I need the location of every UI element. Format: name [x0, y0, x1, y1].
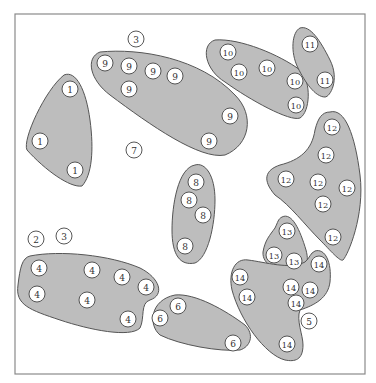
node-6: 6	[225, 335, 241, 351]
node-10: 10	[259, 60, 275, 76]
node-10: 10	[231, 64, 247, 80]
node-label: 12	[281, 175, 291, 185]
node-label: 5	[306, 317, 312, 327]
node-4: 4	[138, 279, 154, 295]
node-label: 8	[193, 178, 199, 188]
node-label: 2	[33, 235, 39, 245]
node-label: 12	[327, 123, 337, 133]
node-label: 14	[305, 286, 315, 296]
node-label: 3	[133, 35, 139, 45]
node-label: 10	[290, 77, 300, 87]
node-14: 14	[279, 336, 295, 352]
node-label: 12	[342, 184, 352, 194]
node-8: 8	[181, 192, 197, 208]
node-14: 14	[283, 279, 299, 295]
node-9: 9	[145, 63, 161, 79]
node-label: 4	[36, 264, 42, 274]
node-label: 3	[61, 232, 67, 242]
node-9: 9	[201, 133, 217, 149]
node-label: 9	[126, 62, 132, 72]
node-12: 12	[315, 196, 331, 212]
node-label: 14	[314, 260, 324, 270]
node-label: 13	[282, 227, 292, 237]
node-label: 14	[242, 293, 252, 303]
node-label: 13	[289, 257, 299, 267]
node-label: 14	[282, 340, 292, 350]
node-8: 8	[177, 238, 193, 254]
node-12: 12	[325, 229, 341, 245]
node-label: 9	[150, 67, 156, 77]
node-9: 9	[97, 55, 113, 71]
node-label: 9	[227, 112, 233, 122]
node-5: 5	[301, 313, 317, 329]
node-11: 11	[302, 36, 318, 52]
node-label: 11	[305, 40, 315, 50]
node-label: 12	[328, 233, 338, 243]
node-8: 8	[195, 207, 211, 223]
node-7: 7	[126, 142, 142, 158]
node-label: 6	[230, 339, 236, 349]
node-14: 14	[239, 289, 255, 305]
node-12: 12	[339, 180, 355, 196]
node-label: 10	[223, 48, 233, 58]
node-label: 12	[313, 178, 323, 188]
node-label: 1	[37, 137, 43, 147]
node-14: 14	[288, 295, 304, 311]
node-label: 7	[131, 146, 137, 156]
node-label: 10	[262, 64, 272, 74]
node-label: 4	[84, 296, 90, 306]
node-label: 10	[291, 101, 301, 111]
node-14: 14	[232, 269, 248, 285]
node-label: 4	[143, 283, 149, 293]
node-label: 13	[269, 251, 279, 261]
node-9: 9	[121, 58, 137, 74]
node-12: 12	[278, 171, 294, 187]
node-10: 10	[287, 73, 303, 89]
node-13: 13	[266, 247, 282, 263]
cluster-diagram: 1112334444444566678888999999910101010101…	[0, 0, 376, 383]
node-4: 4	[120, 311, 136, 327]
node-3: 3	[56, 228, 72, 244]
node-label: 4	[125, 315, 131, 325]
node-label: 9	[102, 59, 108, 69]
node-12: 12	[318, 147, 334, 163]
node-label: 8	[186, 196, 192, 206]
node-12: 12	[324, 119, 340, 135]
node-label: 6	[157, 314, 163, 324]
node-label: 14	[291, 299, 301, 309]
node-label: 4	[89, 266, 95, 276]
node-13: 13	[279, 223, 295, 239]
node-label: 8	[200, 211, 206, 221]
node-4: 4	[84, 262, 100, 278]
node-6: 6	[152, 310, 168, 326]
node-label: 10	[234, 68, 244, 78]
node-1: 1	[62, 81, 78, 97]
node-9: 9	[222, 108, 238, 124]
node-10: 10	[288, 97, 304, 113]
node-4: 4	[79, 292, 95, 308]
node-9: 9	[167, 68, 183, 84]
node-14: 14	[311, 256, 327, 272]
node-4: 4	[31, 260, 47, 276]
node-label: 4	[34, 290, 40, 300]
node-label: 12	[321, 151, 331, 161]
node-label: 1	[72, 166, 78, 176]
node-label: 6	[175, 302, 181, 312]
node-1: 1	[67, 162, 83, 178]
node-4: 4	[114, 269, 130, 285]
node-12: 12	[310, 174, 326, 190]
node-14: 14	[302, 282, 318, 298]
node-label: 12	[318, 200, 328, 210]
node-1: 1	[32, 133, 48, 149]
node-13: 13	[286, 253, 302, 269]
node-11: 11	[317, 72, 333, 88]
node-9: 9	[121, 81, 137, 97]
node-label: 9	[172, 72, 178, 82]
node-label: 9	[126, 85, 132, 95]
node-10: 10	[220, 44, 236, 60]
node-label: 14	[286, 283, 296, 293]
node-2: 2	[28, 231, 44, 247]
node-label: 11	[320, 76, 330, 86]
node-label: 9	[206, 137, 212, 147]
node-8: 8	[188, 174, 204, 190]
